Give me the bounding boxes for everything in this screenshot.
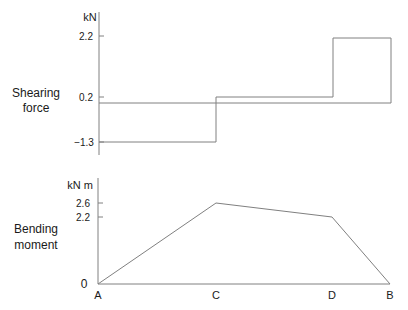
bending-moment-panel: kN m 2.6 2.2 0 Bending moment A C D B bbox=[14, 178, 394, 301]
point-label-b: B bbox=[386, 289, 393, 301]
point-label-d: D bbox=[328, 289, 336, 301]
shear-title-line1: Shearing bbox=[12, 86, 60, 100]
moment-tick-label: 2.2 bbox=[76, 212, 90, 223]
shear-tick-label: 2.2 bbox=[79, 31, 93, 42]
moment-unit-label: kN m bbox=[67, 179, 93, 191]
shear-force-panel: kN 2.2 0.2 −1.3 Shearing force bbox=[12, 11, 391, 155]
moment-title-line2: moment bbox=[14, 238, 58, 252]
shear-tick-label: −1.3 bbox=[74, 137, 94, 148]
point-label-c: C bbox=[212, 289, 220, 301]
moment-tick-label: 2.6 bbox=[76, 198, 90, 209]
shear-force-line bbox=[99, 38, 391, 142]
shear-moment-diagram: kN 2.2 0.2 −1.3 Shearing force kN m 2.6 … bbox=[0, 0, 408, 310]
shear-title-line2: force bbox=[23, 101, 50, 115]
moment-title-line1: Bending bbox=[14, 222, 58, 236]
shear-tick-label: 0.2 bbox=[79, 92, 93, 103]
point-label-a: A bbox=[94, 289, 102, 301]
moment-tick-label: 0 bbox=[81, 277, 88, 291]
shear-unit-label: kN bbox=[83, 11, 97, 23]
bending-moment-line bbox=[98, 203, 390, 284]
